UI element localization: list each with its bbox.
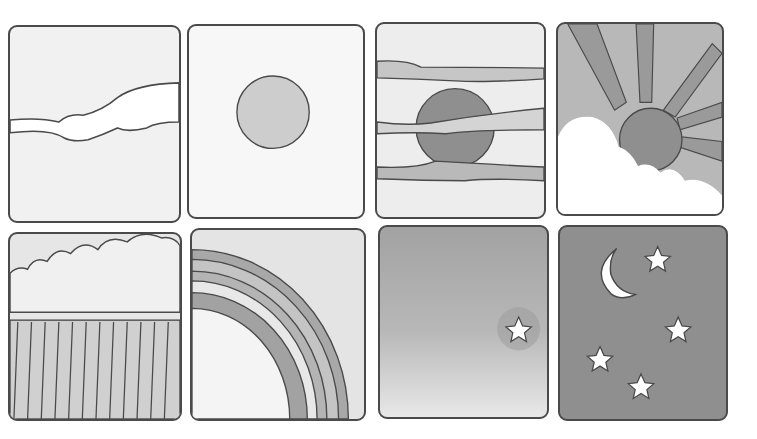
cloud-streak-icon <box>10 27 179 221</box>
panel-dusk-star: Dusk sky with one star <box>378 225 549 419</box>
rain-cloud-icon <box>10 234 180 419</box>
panel-sun-behind-cloud: Sun rays behind cloud <box>556 22 724 216</box>
sun-rays-cloud-icon <box>558 24 722 214</box>
panel-rainbow: Rainbow <box>190 228 366 421</box>
sun-icon <box>189 26 363 217</box>
panel-cloud-streak: Cloudy sky with streak of cloud <box>8 25 181 223</box>
panel-sun: Sun <box>187 24 365 219</box>
rainbow-icon <box>192 230 364 419</box>
panel-sunset: Sunset behind cloud bands <box>375 22 546 219</box>
panel-night-sky: Night sky with moon and stars <box>558 225 728 421</box>
moon-and-stars-icon <box>560 227 726 419</box>
star-icon <box>380 227 547 417</box>
panel-rain: Rain cloud with rain <box>8 232 182 421</box>
sunset-icon <box>377 24 544 217</box>
